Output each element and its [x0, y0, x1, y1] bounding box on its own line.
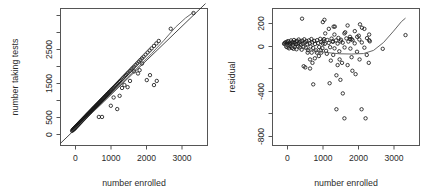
data-point	[349, 47, 352, 50]
data-point	[327, 27, 330, 30]
right-panel: 0 1000 2000 3000 -800 -400 0 200 residua…	[213, 0, 426, 196]
right-x-tick-1: 1000	[313, 153, 332, 163]
data-point	[367, 61, 370, 64]
data-point	[123, 83, 126, 86]
data-point	[327, 41, 330, 44]
data-point	[360, 108, 363, 111]
right-x-tick-2: 2000	[349, 153, 368, 163]
data-point	[339, 78, 342, 81]
left-x-axis-title: number enrolled	[102, 178, 166, 188]
right-y-axis-title: residual	[227, 62, 237, 93]
data-point	[146, 51, 149, 54]
data-point	[169, 27, 172, 30]
left-y-tick-2500: 2500	[44, 40, 54, 59]
right-x-tick-0: 0	[285, 153, 290, 163]
right-y-tickmarks	[269, 24, 273, 137]
data-point	[116, 107, 119, 110]
data-point	[353, 29, 356, 32]
left-panel: 0 1000 2000 3000 0 500 1500 2500 number …	[0, 0, 213, 196]
data-point	[145, 78, 148, 81]
left-x-tick-2: 2000	[137, 153, 156, 163]
data-point	[300, 17, 303, 20]
data-point	[333, 33, 336, 36]
data-point	[155, 79, 158, 82]
data-point	[310, 51, 313, 54]
data-point	[358, 58, 361, 61]
data-point	[136, 72, 139, 75]
data-point	[365, 53, 368, 56]
data-point	[381, 47, 384, 50]
data-point	[338, 50, 341, 53]
left-fit-lines	[61, 4, 206, 144]
left-x-tick-3: 3000	[172, 153, 191, 163]
left-x-tick-0: 0	[73, 153, 78, 163]
right-y-ticklabels: -800 -400 0 200	[256, 16, 266, 145]
right-y-tick-neg800: -800	[256, 128, 266, 145]
data-point	[335, 74, 338, 77]
left-x-tick-1: 1000	[101, 153, 120, 163]
data-point	[337, 36, 340, 39]
data-point	[360, 41, 363, 44]
right-y-tick-200: 200	[256, 16, 266, 31]
data-point	[355, 50, 358, 53]
left-y-tick-500: 500	[44, 110, 54, 125]
data-point	[328, 46, 331, 49]
data-point	[335, 108, 338, 111]
left-plot-frame	[61, 9, 208, 146]
data-point	[313, 57, 316, 60]
left-plot-svg: 0 1000 2000 3000 0 500 1500 2500 number …	[0, 0, 213, 196]
left-x-ticklabels: 0 1000 2000 3000	[73, 153, 192, 163]
right-y-tick-neg400: -400	[256, 83, 266, 100]
data-point	[312, 83, 315, 86]
data-point	[358, 23, 361, 26]
data-point	[336, 63, 339, 66]
right-fit-lines	[283, 18, 406, 54]
data-point	[308, 58, 311, 61]
data-point	[338, 58, 341, 61]
data-point	[353, 42, 356, 45]
right-x-tickmarks	[288, 146, 395, 150]
data-point	[404, 33, 407, 36]
data-point	[354, 72, 357, 75]
loess-residual-curve	[283, 18, 406, 54]
left-y-tick-1500: 1500	[44, 74, 54, 93]
data-point	[152, 83, 155, 86]
data-point	[148, 73, 151, 76]
right-plot-svg: 0 1000 2000 3000 -800 -400 0 200 residua…	[213, 0, 426, 196]
figure-root: 0 1000 2000 3000 0 500 1500 2500 number …	[0, 0, 427, 196]
data-point	[311, 61, 314, 64]
data-point	[364, 117, 367, 120]
right-plot-frame	[273, 9, 420, 146]
data-point	[109, 104, 112, 107]
data-point	[346, 24, 349, 27]
data-point	[157, 39, 160, 42]
data-point	[126, 85, 129, 88]
data-point	[343, 117, 346, 120]
data-point	[345, 37, 348, 40]
data-point	[350, 55, 353, 58]
data-point	[308, 67, 311, 70]
data-point	[148, 49, 151, 52]
right-x-tick-3: 3000	[384, 153, 403, 163]
data-point	[112, 96, 115, 99]
data-point	[144, 53, 147, 56]
left-y-ticklabels: 0 500 1500 2500	[44, 40, 54, 137]
data-point	[138, 68, 141, 71]
right-y-tick-0: 0	[256, 44, 266, 49]
left-y-tickmarks	[57, 16, 61, 135]
data-point	[343, 46, 346, 49]
data-point	[317, 54, 320, 57]
data-point	[341, 92, 344, 95]
data-point	[363, 46, 366, 49]
data-point	[351, 69, 354, 72]
right-data-points	[282, 17, 407, 120]
data-point	[324, 32, 327, 35]
data-point	[128, 79, 131, 82]
right-x-axis-title: number enrolled	[314, 178, 378, 188]
left-y-axis-title: number taking tests	[10, 38, 20, 115]
data-point	[346, 63, 349, 66]
data-point	[118, 94, 121, 97]
data-point	[333, 47, 336, 50]
data-point	[367, 33, 370, 36]
left-y-tick-0: 0	[44, 132, 54, 137]
